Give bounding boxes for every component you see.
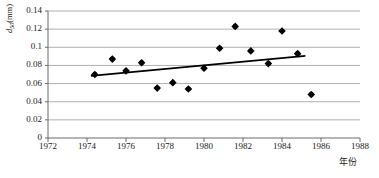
- x-tick-label: 1976: [106, 141, 146, 151]
- x-tick-label: 1972: [28, 141, 68, 151]
- x-tick-label: 1986: [301, 141, 341, 151]
- x-axis-tick-labels: 197219741976197819801982198419861988: [0, 0, 379, 178]
- x-tick-label: 1974: [67, 141, 107, 151]
- x-tick-label: 1984: [262, 141, 302, 151]
- x-axis-title: 年份: [339, 155, 357, 168]
- x-tick-label: 1982: [223, 141, 263, 151]
- x-tick-label: 1978: [145, 141, 185, 151]
- x-tick-label: 1980: [184, 141, 224, 151]
- x-tick-label: 1988: [340, 141, 379, 151]
- scatter-chart: d50(mm) 00.020.040.060.080.10.120.14 197…: [0, 0, 379, 178]
